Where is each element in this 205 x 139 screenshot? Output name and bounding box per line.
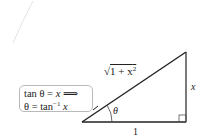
angle-label: θ — [113, 106, 118, 116]
opposite-label: x — [191, 82, 195, 92]
box-pointer — [93, 106, 98, 110]
hypotenuse-label: √1 + x2 — [104, 66, 136, 77]
triangle-diagram — [0, 0, 205, 139]
adjacent-label: 1 — [133, 127, 138, 137]
angle-arc — [107, 105, 112, 122]
faint-curve — [13, 1, 33, 43]
note-line-2: θ = tan−1 x — [24, 99, 88, 112]
identity-note-box: tan θ = x ⟹ θ = tan−1 x — [19, 85, 93, 112]
hypotenuse-side — [82, 52, 186, 122]
right-angle-marker — [179, 115, 186, 122]
note-line-1: tan θ = x ⟹ — [24, 88, 88, 99]
